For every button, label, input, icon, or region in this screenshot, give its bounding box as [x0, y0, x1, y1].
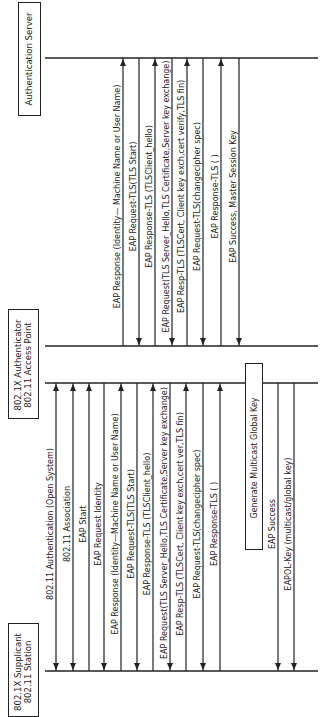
arrowhead-down-icon: [275, 663, 281, 670]
entity-authenticator: 802.1X Authenticator 802.11 Access Point: [8, 309, 39, 419]
arrowhead-down-icon: [70, 663, 76, 670]
arrowhead-down-icon: [200, 663, 206, 670]
arrowhead-down-icon: [53, 663, 59, 670]
message-label: EAP Response (Identity—Machine Name or U…: [111, 389, 120, 659]
arrowhead-down-icon: [291, 663, 297, 670]
entity-label: Authentication Server: [24, 11, 34, 107]
message-label: EAP Request(TLS Server_Hello,TLS Certifi…: [160, 389, 169, 659]
arrowhead-down-icon: [134, 663, 140, 670]
message-label: EAP Success, Master Session Key: [229, 59, 238, 334]
arrowhead-down-icon: [236, 338, 242, 345]
entity-label: 802.1X Supplicant: [13, 632, 23, 712]
message-label: EAP Request(TLS Server_Hello,TLS Certifi…: [162, 59, 171, 334]
message-label: EAP Response-TLS ( ): [210, 389, 219, 659]
message-label: EAPOL-Key (multicast/global key): [284, 389, 293, 659]
entity-supplicant: 802.1X Supplicant 802.11 Station: [8, 623, 39, 717]
message-label: EAP Response-TLS (TLSClient_hello): [143, 389, 152, 659]
message-label: EAP Response (Identity— Machine Name or …: [113, 59, 122, 334]
message-label: EAP Request-TLS(changecipher spec): [193, 389, 202, 659]
arrowhead-down-icon: [169, 338, 175, 345]
message-label: EAP Start: [79, 389, 88, 659]
entity-label: 802.11 Station: [23, 632, 33, 712]
message-label: EAP Request-TLS(changecipher spec): [193, 59, 202, 334]
message-label: EAP Request-TLS(TLS Start): [129, 59, 138, 334]
arrowhead-down-icon: [101, 663, 107, 670]
message-label: EAP Response-TLS ( ): [211, 59, 220, 334]
message-label: EAP Request Identity: [94, 389, 103, 659]
message-label: EAP Success: [268, 389, 277, 659]
entity-label: 802.11 Access Point: [23, 319, 33, 411]
arrowhead-down-icon: [200, 338, 206, 345]
process-label: Generate Multicast Global Key: [250, 372, 259, 544]
message-label: 802.11 Authentication (Open System): [46, 389, 55, 659]
message-label: EAP Resp-TLS (TLSCert, Client key exch,c…: [176, 389, 185, 659]
entity-authentication-server: Authentication Server: [18, 2, 41, 116]
message-label: EAP Response-TLS (TLSClient_hello): [145, 59, 154, 334]
entity-label: 802.1X Authenticator: [13, 319, 23, 411]
arrowhead-down-icon: [136, 338, 142, 345]
message-label: 802.11 Association: [63, 389, 72, 659]
arrowhead-down-icon: [167, 663, 173, 670]
message-label: EAP Request-TLS(TLS Start): [127, 389, 136, 659]
message-label: EAP Resp-TLS (TLSCert, Client key exch,c…: [177, 59, 186, 334]
process-generate-global-key: Generate Multicast Global Key: [245, 363, 263, 550]
